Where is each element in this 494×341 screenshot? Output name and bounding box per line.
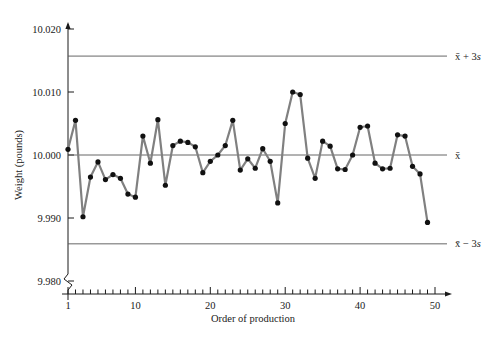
data-point — [260, 146, 265, 151]
data-point — [380, 166, 385, 171]
y-tick-label-9.980: 9.980 — [37, 276, 61, 287]
control-chart: 9.9809.99010.00010.01010.020 Weight (pou… — [0, 0, 494, 341]
data-point — [395, 132, 400, 137]
x-tick-label-10: 10 — [130, 300, 141, 311]
y-axis-group: 9.9809.99010.00010.01010.020 Weight (pou… — [13, 22, 74, 300]
data-point — [290, 89, 295, 94]
data-point — [320, 139, 325, 144]
data-point — [230, 118, 235, 123]
data-point — [185, 140, 190, 145]
x-tick-label-40: 40 — [355, 300, 366, 311]
data-point — [253, 166, 258, 171]
data-point — [65, 147, 70, 152]
data-point — [268, 159, 273, 164]
data-point — [200, 170, 205, 175]
data-point — [88, 174, 93, 179]
data-point — [275, 200, 280, 205]
data-point — [387, 166, 392, 171]
data-point — [298, 92, 303, 97]
reference-label-center: x̄ — [455, 150, 461, 161]
data-point — [402, 134, 407, 139]
x-axis-arrow-icon — [445, 291, 452, 296]
data-point — [358, 125, 363, 130]
reference-lines-group — [68, 56, 447, 244]
x-tick-label-30: 30 — [280, 300, 291, 311]
y-axis-title: Weight (pounds) — [13, 129, 25, 200]
x-tick-label-20: 20 — [205, 300, 216, 311]
data-point — [215, 152, 220, 157]
data-point — [238, 168, 243, 173]
data-point — [170, 143, 175, 148]
data-point — [283, 121, 288, 126]
data-point — [372, 161, 377, 166]
data-point — [73, 118, 78, 123]
data-point — [193, 144, 198, 149]
reference-line-labels: x̄ + 3sx̄x̄ − 3s — [455, 51, 481, 250]
data-point — [335, 166, 340, 171]
data-point — [178, 139, 183, 144]
x-axis-title: Order of production — [211, 313, 296, 324]
data-point — [365, 123, 370, 128]
x-tick-label-50: 50 — [430, 300, 441, 311]
data-point — [425, 220, 430, 225]
data-series-group — [65, 89, 430, 225]
y-axis-tick-labels: 9.9809.99010.00010.01010.020 — [32, 24, 61, 287]
data-point — [140, 134, 145, 139]
data-point — [125, 191, 130, 196]
data-point — [155, 117, 160, 122]
y-tick-label-9.990: 9.990 — [37, 213, 61, 224]
data-point — [410, 164, 415, 169]
y-tick-label-10.000: 10.000 — [32, 150, 61, 161]
x-axis-tick-labels: 11020304050 — [65, 300, 440, 311]
data-point — [343, 167, 348, 172]
data-point — [133, 195, 138, 200]
data-point — [350, 152, 355, 157]
y-axis-arrow-icon — [65, 22, 70, 29]
control-chart-canvas: 9.9809.99010.00010.01010.020 Weight (pou… — [0, 0, 494, 341]
data-point — [417, 171, 422, 176]
data-point — [80, 214, 85, 219]
x-axis-minor-ticks — [68, 287, 435, 294]
data-point — [208, 159, 213, 164]
data-point — [103, 177, 108, 182]
x-axis-group: 11020304050 Order of production — [62, 287, 452, 324]
data-point — [313, 176, 318, 181]
data-point — [328, 144, 333, 149]
series-markers-weight — [65, 89, 430, 225]
reference-label-lcl: x̄ − 3s — [455, 238, 481, 249]
x-tick-label-1: 1 — [65, 300, 70, 311]
data-point — [245, 156, 250, 161]
y-tick-label-10.010: 10.010 — [32, 87, 61, 98]
data-point — [95, 159, 100, 164]
data-point — [223, 143, 228, 148]
data-point — [110, 172, 115, 177]
data-point — [305, 156, 310, 161]
y-tick-label-10.020: 10.020 — [32, 24, 61, 35]
reference-label-ucl: x̄ + 3s — [455, 51, 481, 62]
data-point — [118, 176, 123, 181]
data-point — [148, 161, 153, 166]
data-point — [163, 183, 168, 188]
